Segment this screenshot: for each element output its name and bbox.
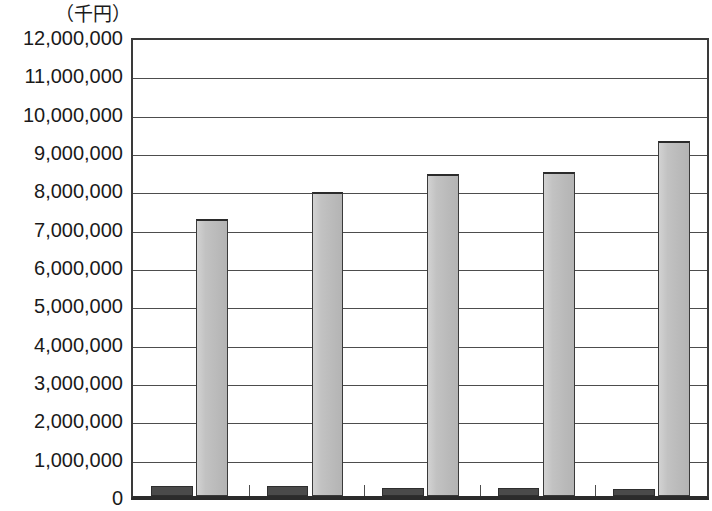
y-axis-tick-label: 9,000,000 xyxy=(34,143,123,163)
bar-dark xyxy=(151,486,193,496)
y-axis-tick-label: 10,000,000 xyxy=(23,105,123,125)
bar-group xyxy=(249,40,365,496)
y-axis-tick-label: 2,000,000 xyxy=(34,411,123,431)
bar-dark xyxy=(382,488,424,496)
bar-light xyxy=(312,192,344,496)
y-axis-tick-label: 11,000,000 xyxy=(24,66,123,86)
axis-baseline xyxy=(131,498,709,500)
bar-group xyxy=(480,40,596,496)
bar-group xyxy=(364,40,480,496)
y-axis-tick-label: 1,000,000 xyxy=(34,450,123,470)
plot-area xyxy=(131,38,709,498)
unit-caption: （千円） xyxy=(55,4,131,26)
bar-light xyxy=(658,141,690,496)
y-axis-tick-label: 8,000,000 xyxy=(34,181,123,201)
y-axis-tick-label: 4,000,000 xyxy=(34,335,123,355)
y-axis-tick-label: 6,000,000 xyxy=(34,258,123,278)
bar-dark xyxy=(613,489,655,496)
y-axis-labels: 01,000,0002,000,0003,000,0004,000,0005,0… xyxy=(0,0,131,511)
bar-group xyxy=(133,40,249,496)
chart-screen: （千円） 01,000,0002,000,0003,000,0004,000,0… xyxy=(0,0,712,511)
bar-light xyxy=(427,174,459,496)
bar-light xyxy=(196,219,228,496)
y-axis-tick-label: 7,000,000 xyxy=(34,220,123,240)
bar-dark xyxy=(267,486,309,496)
bar-dark xyxy=(498,488,540,496)
y-axis-tick-label: 12,000,000 xyxy=(23,28,123,48)
bar-groups xyxy=(133,40,707,496)
y-axis-tick-label: 3,000,000 xyxy=(34,373,123,393)
bar-group xyxy=(595,40,711,496)
y-axis-tick-label: 5,000,000 xyxy=(34,296,123,316)
y-axis-tick-label: 0 xyxy=(112,488,123,508)
bar-light xyxy=(543,172,575,496)
